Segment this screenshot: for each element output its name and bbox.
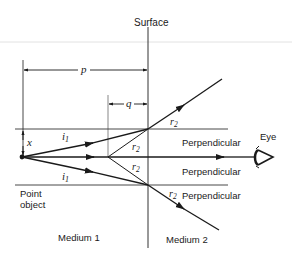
virtual-ray-top [108,129,148,157]
perpendicular-bottom-label: Perpendicular [182,190,241,201]
refracted-ray-top-a [148,105,184,129]
incident-ray-top-b [91,129,148,143]
q-label: q [126,97,132,109]
medium2-label: Medium 2 [166,234,208,245]
refracted-ray-bottom-a [148,185,184,209]
p-label: p [80,63,87,75]
r2-inner-mid-label: r2 [132,161,140,174]
i1-bottom-label: i1 [62,170,69,184]
surface-label: Surface [134,17,169,28]
r2-inner-top-label: r2 [132,141,140,154]
point-object-label: Point object [20,188,46,210]
incident-ray-top-a [22,143,93,157]
perpendicular-top-label: Perpendicular [182,137,241,148]
x-label: x [26,136,32,148]
refracted-ray-bottom-b [182,208,219,230]
eye-icon [255,146,273,168]
medium1-label: Medium 1 [58,232,100,243]
eye-label: Eye [260,131,276,142]
i1-top-label: i1 [62,130,69,144]
incident-ray-bottom-a [22,157,93,172]
perpendicular-mid-label: Perpendicular [182,166,241,177]
refraction-diagram: Surface p q x i1 i1 r2 r2 r2 r2 Perpendi… [0,0,292,257]
refracted-ray-top-b [182,79,222,106]
r2-top-outer-label: r2 [170,116,178,129]
